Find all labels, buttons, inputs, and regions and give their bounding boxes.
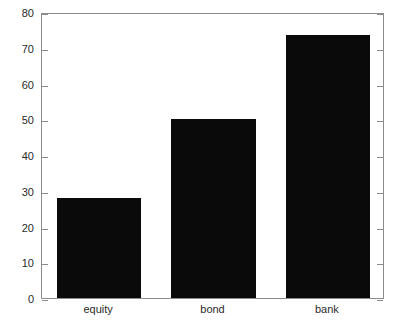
y-axis-tick [377, 121, 383, 122]
y-axis-tick [42, 14, 48, 15]
y-axis-tick [42, 264, 48, 265]
y-axis-tick [377, 193, 383, 194]
bar-chart-figure: 01020304050607080 equitybondbank [0, 0, 402, 333]
y-axis-tick [42, 229, 48, 230]
y-axis-tick [377, 14, 383, 15]
y-axis-tick [377, 86, 383, 87]
y-axis-tick-label: 50 [4, 115, 34, 126]
bar [57, 198, 141, 298]
y-axis-tick [377, 157, 383, 158]
x-axis-tick-label: bank [315, 302, 339, 317]
y-axis-tick-label: 30 [4, 186, 34, 197]
y-axis-tick [377, 229, 383, 230]
y-axis-tick [377, 50, 383, 51]
y-axis-tick [377, 300, 383, 301]
y-axis-tick-label: 80 [4, 8, 34, 19]
y-axis-tick-label: 70 [4, 43, 34, 54]
y-axis-tick [377, 264, 383, 265]
x-axis-tick-labels: equitybondbank [41, 302, 384, 324]
y-axis-tick [42, 50, 48, 51]
y-axis-tick-label: 20 [4, 222, 34, 233]
y-axis-tick [42, 300, 48, 301]
bar [286, 35, 370, 298]
y-axis-tick-label: 0 [4, 294, 34, 305]
bar [171, 119, 255, 298]
y-axis-tick-labels: 01020304050607080 [0, 13, 38, 299]
y-axis-tick [42, 193, 48, 194]
y-axis-tick [42, 86, 48, 87]
y-axis-tick [42, 121, 48, 122]
x-axis-tick-label: equity [83, 302, 112, 317]
x-axis-tick-label: bond [200, 302, 224, 317]
y-axis-tick-label: 10 [4, 258, 34, 269]
y-axis-tick-label: 40 [4, 151, 34, 162]
plot-area [41, 13, 384, 299]
y-axis-tick-label: 60 [4, 79, 34, 90]
y-axis-tick [42, 157, 48, 158]
